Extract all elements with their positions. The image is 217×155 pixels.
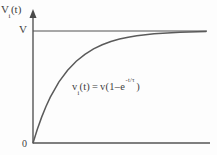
equation-rhs-prefix: v(1 — [100, 81, 115, 92]
y-axis-label: Vi(t) — [1, 4, 21, 18]
equation-lhs-suffix: (t) — [79, 81, 90, 92]
equation-rhs-suffix: ) — [136, 81, 140, 92]
plot-canvas — [0, 0, 217, 155]
y-axis-label-suffix: (t) — [11, 3, 21, 15]
asymptote-value-label: V — [19, 24, 27, 35]
exponential-charging-curve-figure: Vi(t) V 0 vi(t)=v(1–e-t/τ) — [0, 0, 217, 155]
equation-annotation: vi(t)=v(1–e-t/τ) — [72, 80, 140, 94]
equation-equals-sign: = — [92, 81, 98, 92]
equation-exponent: -t/τ — [126, 76, 135, 83]
y-axis-arrow-icon — [30, 9, 37, 18]
origin-label: 0 — [22, 139, 27, 149]
equation-base-e: e — [120, 81, 125, 92]
